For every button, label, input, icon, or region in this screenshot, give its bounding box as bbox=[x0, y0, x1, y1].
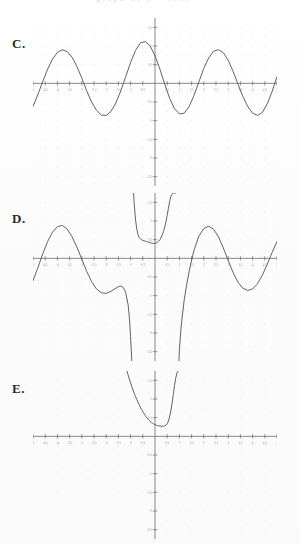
graph-plot-c[interactable]: -5-4.5-4-3.5-3-2.5-2-1.5-1-0.50.511.522.… bbox=[33, 18, 277, 186]
x-tick-label: -3 bbox=[81, 441, 84, 445]
x-tick-label: 1 bbox=[179, 88, 181, 92]
x-tick-label: 5 bbox=[276, 263, 277, 267]
y-tick-group: 1.510.5-0.5-1-1.5-2-2.5 bbox=[147, 201, 157, 354]
panel-label-e: E. bbox=[12, 381, 25, 397]
y-tick-label: -0.5 bbox=[147, 100, 152, 104]
x-tick-label: -5 bbox=[33, 441, 35, 445]
x-tick-label: -2.5 bbox=[92, 88, 97, 92]
y-tick-label: -1 bbox=[149, 119, 152, 123]
x-tick-label: 4.5 bbox=[263, 88, 267, 92]
x-tick-label: -0.5 bbox=[140, 441, 145, 445]
answer-choice-panel-e: E. -5-4.5-4-3.5-3-2.5-2-1.5-1-0.50.511.5… bbox=[0, 371, 300, 539]
x-tick-label: -2.5 bbox=[92, 263, 97, 267]
panel-label-c: C. bbox=[12, 36, 26, 52]
x-tick-label: -4.5 bbox=[43, 441, 48, 445]
graph-plot-d[interactable]: -5-4.5-4-3.5-3-2.5-2-1.5-1-0.50.511.522.… bbox=[33, 193, 277, 361]
x-tick-label: 3 bbox=[227, 441, 229, 445]
x-tick-label: 4 bbox=[252, 263, 254, 267]
x-tick-label: -1.5 bbox=[116, 263, 121, 267]
x-tick-label: 2 bbox=[203, 263, 205, 267]
x-tick-label: 1 bbox=[179, 263, 181, 267]
graph-plot-e[interactable]: -5-4.5-4-3.5-3-2.5-2-1.5-1-0.50.511.522.… bbox=[33, 371, 277, 539]
y-tick-label: -2 bbox=[149, 156, 152, 160]
x-tick-label: -3 bbox=[81, 88, 84, 92]
x-tick-label: 4.5 bbox=[263, 441, 267, 445]
x-tick-label: -0.5 bbox=[140, 88, 145, 92]
x-tick-label: 1.5 bbox=[190, 88, 194, 92]
y-tick-label: -1 bbox=[149, 294, 152, 298]
x-tick-label: -2.5 bbox=[92, 441, 97, 445]
answer-choice-panel-c: C. -5-4.5-4-3.5-3-2.5-2-1.5-1-0.50.511.5… bbox=[0, 18, 300, 186]
y-tick-group: 1.510.5-0.5-1-1.5-2-2.5 bbox=[147, 26, 157, 179]
curve-u-branch bbox=[127, 371, 178, 426]
graph-svg: -5-4.5-4-3.5-3-2.5-2-1.5-1-0.50.511.522.… bbox=[33, 193, 277, 361]
x-tick-label: -4 bbox=[56, 88, 59, 92]
graph-svg: -5-4.5-4-3.5-3-2.5-2-1.5-1-0.50.511.522.… bbox=[33, 371, 277, 539]
x-tick-label: 4 bbox=[252, 88, 254, 92]
x-tick-label: 4 bbox=[252, 441, 254, 445]
x-tick-label: -3.5 bbox=[67, 441, 72, 445]
x-tick-label: 2 bbox=[203, 441, 205, 445]
y-tick-label: 1.5 bbox=[148, 201, 152, 205]
x-tick-label: 0.5 bbox=[165, 441, 169, 445]
x-tick-label: 2.5 bbox=[214, 88, 218, 92]
y-tick-label: -2.5 bbox=[147, 175, 152, 179]
x-tick-label: 2.5 bbox=[214, 441, 218, 445]
x-tick-label: -4.5 bbox=[43, 88, 48, 92]
y-tick-label: -2.5 bbox=[147, 350, 152, 354]
y-tick-label: -1.5 bbox=[147, 138, 152, 142]
x-tick-label: 2 bbox=[203, 88, 205, 92]
x-tick-label: -2 bbox=[105, 441, 108, 445]
x-tick-label: 3 bbox=[227, 88, 229, 92]
y-tick-label: 0.5 bbox=[148, 238, 152, 242]
y-tick-label: 1.5 bbox=[148, 379, 152, 383]
x-tick-label: 5 bbox=[276, 88, 277, 92]
x-tick-label: -0.5 bbox=[140, 263, 145, 267]
answer-choice-panel-d: D. -5-4.5-4-3.5-3-2.5-2-1.5-1-0.50.511.5… bbox=[0, 193, 300, 361]
x-tick-label: 2.5 bbox=[214, 263, 218, 267]
x-tick-label: -5 bbox=[33, 88, 35, 92]
x-tick-label: -2 bbox=[105, 88, 108, 92]
y-tick-label: -1.5 bbox=[147, 491, 152, 495]
y-tick-label: 1 bbox=[150, 219, 152, 223]
y-tick-label: -2.5 bbox=[147, 528, 152, 532]
figure-page: graph of y = f(x) C. -5-4.5-4-3.5-3-2.5-… bbox=[0, 0, 300, 544]
y-tick-label: -2 bbox=[149, 509, 152, 513]
x-tick-label: -5 bbox=[33, 263, 35, 267]
y-tick-label: -0.5 bbox=[147, 453, 152, 457]
x-tick-label: -2 bbox=[105, 263, 108, 267]
x-tick-label: -3.5 bbox=[67, 263, 72, 267]
x-tick-label: -1.5 bbox=[116, 441, 121, 445]
y-tick-label: 1 bbox=[150, 397, 152, 401]
y-tick-group: 1.510.5-0.5-1-1.5-2-2.5 bbox=[147, 379, 157, 532]
y-tick-label: -2 bbox=[149, 331, 152, 335]
x-tick-label: 3.5 bbox=[238, 263, 242, 267]
x-tick-label: 3.5 bbox=[238, 441, 242, 445]
y-tick-label: -0.5 bbox=[147, 275, 152, 279]
graph-svg: -5-4.5-4-3.5-3-2.5-2-1.5-1-0.50.511.522.… bbox=[33, 18, 277, 186]
curve-left-branch bbox=[33, 225, 132, 361]
y-tick-label: 0.5 bbox=[148, 63, 152, 67]
x-tick-label: 5 bbox=[276, 441, 277, 445]
x-tick-label: 1 bbox=[179, 441, 181, 445]
x-tick-label: 1.5 bbox=[190, 441, 194, 445]
x-tick-label: -3.5 bbox=[67, 88, 72, 92]
y-tick-label: -1.5 bbox=[147, 313, 152, 317]
x-tick-label: 0.5 bbox=[165, 263, 169, 267]
x-tick-label: -1 bbox=[129, 441, 132, 445]
x-tick-label: -1 bbox=[129, 263, 132, 267]
y-tick-label: 1.5 bbox=[148, 26, 152, 30]
x-tick-label: -4 bbox=[56, 441, 59, 445]
clipped-header-text: graph of y = f(x) bbox=[96, 0, 216, 7]
y-tick-label: -1 bbox=[149, 472, 152, 476]
panel-label-d: D. bbox=[12, 211, 26, 227]
x-tick-label: -4 bbox=[56, 263, 59, 267]
x-tick-label: -1 bbox=[129, 88, 132, 92]
curve-right-branch bbox=[179, 226, 277, 361]
x-tick-label: -4.5 bbox=[43, 263, 48, 267]
